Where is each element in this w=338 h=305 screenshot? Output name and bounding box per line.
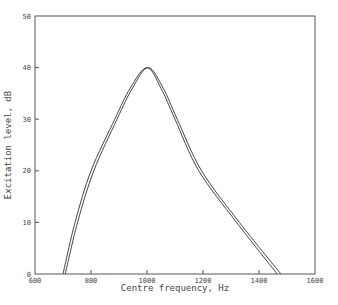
y-axis-label: Excitation level, dB <box>3 91 13 199</box>
x-tick-label: 1600 <box>307 277 324 285</box>
plot-border <box>35 16 315 274</box>
x-tick-label: 1400 <box>251 277 268 285</box>
y-tick-label: 10 <box>23 219 31 227</box>
y-axis-ticks: 01020304050 <box>23 13 39 279</box>
x-tick-label: 600 <box>29 277 42 285</box>
plot-frame <box>35 16 315 274</box>
excitation-curves <box>63 68 281 274</box>
excitation-curve-curve-2 <box>65 68 281 274</box>
y-tick-label: 20 <box>23 167 31 175</box>
excitation-curve-curve-1 <box>63 68 277 274</box>
y-tick-label: 30 <box>23 116 31 124</box>
y-tick-label: 50 <box>23 13 31 21</box>
x-axis-label: Centre frequency, Hz <box>121 283 229 293</box>
y-tick-label: 40 <box>23 64 31 72</box>
excitation-chart: 01020304050 6008001000120014001600 Centr… <box>0 0 338 305</box>
x-tick-label: 800 <box>85 277 98 285</box>
